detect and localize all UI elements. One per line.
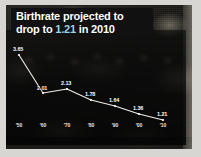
x-tick-3: '80 [88, 122, 94, 128]
headline-highlight-value: 1.21 [55, 23, 76, 35]
x-tick-4: '90 [112, 122, 118, 128]
point-label-3: 1.78 [85, 91, 95, 97]
headline-line-1: Birthrate projected to [16, 10, 149, 22]
photo-frame: 3.65 2.01 2.13 1.78 1.64 1.36 1.21 '50 '… [0, 0, 201, 157]
point-label-4: 1.64 [109, 97, 119, 103]
point-label-6: 1.21 [157, 111, 167, 117]
x-tick-1: '60 [40, 122, 46, 128]
x-axis: '50 '60 '70 '80 '90 '00 '10 [6, 122, 192, 136]
point-label-0: 3.65 [13, 46, 23, 52]
headline-prefix: drop to [16, 23, 52, 35]
x-tick-5: '00 [136, 122, 142, 128]
headline-caption-bar: Birthrate projected to drop to 1.21 in 2… [11, 8, 153, 36]
point-label-1: 2.01 [37, 85, 47, 91]
headline-suffix: in 2010 [79, 23, 115, 35]
x-tick-0: '50 [16, 122, 22, 128]
x-tick-6: '10 [160, 122, 166, 128]
point-label-5: 1.36 [133, 105, 143, 111]
x-tick-2: '70 [64, 122, 70, 128]
headline-line-2: drop to 1.21 in 2010 [16, 23, 149, 35]
point-label-2: 2.13 [61, 80, 71, 86]
line-chart: 3.65 2.01 2.13 1.78 1.64 1.36 1.21 '50 '… [6, 30, 192, 145]
